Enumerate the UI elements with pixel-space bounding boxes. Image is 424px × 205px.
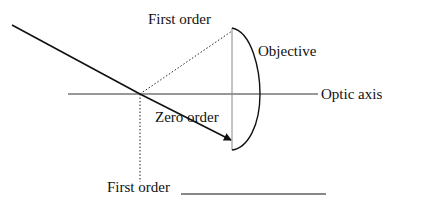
diagram-canvas: First order Objective Optic axis Zero or… xyxy=(0,0,424,205)
zero-order-label: Zero order xyxy=(155,110,219,125)
objective-curved-side xyxy=(232,28,260,150)
optic-axis-label: Optic axis xyxy=(321,87,382,102)
incident-ray xyxy=(12,25,140,94)
first-order-top-label: First order xyxy=(148,12,211,27)
ray-diagram xyxy=(0,0,424,205)
first-order-bottom-label: First order xyxy=(107,180,170,195)
first-order-ray-up xyxy=(140,31,232,94)
objective-label: Objective xyxy=(258,44,316,59)
